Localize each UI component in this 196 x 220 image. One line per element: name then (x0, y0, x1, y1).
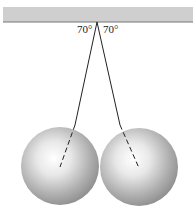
pendulum-diagram (0, 0, 196, 220)
thread-right (97, 22, 120, 125)
sphere-right (100, 128, 178, 206)
ceiling (3, 7, 193, 22)
angle-right-label: 70° (103, 23, 118, 35)
thread-left (75, 22, 97, 125)
angle-left-label: 70° (77, 23, 92, 35)
